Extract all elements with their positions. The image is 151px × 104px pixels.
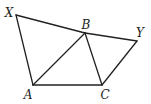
label-c: C [100,88,109,102]
segment-bc [85,33,102,85]
segment-cy [102,41,137,85]
label-y: Y [136,26,145,40]
segment-xb [16,15,85,33]
label-x: X [4,6,14,20]
segment-xa [16,15,33,85]
geometry-diagram: X B Y A C [0,0,151,104]
segments [16,15,137,85]
segment-by [85,33,137,41]
label-b: B [81,18,91,32]
label-a: A [23,88,33,102]
segment-ab [33,33,85,85]
